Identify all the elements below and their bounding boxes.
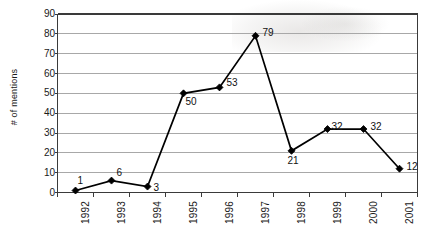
x-axis-tick-label: 1999 [332,200,343,223]
data-point-label: 79 [263,28,274,38]
x-axis-tick-label: 2001 [404,200,415,223]
data-point-label: 6 [117,168,123,178]
line-chart: # of mentions 0102030405060708090 199219… [0,0,442,236]
data-point-label: 50 [186,97,197,107]
x-axis-tick-label: 1998 [296,200,307,223]
data-point-label: 12 [407,162,418,172]
x-axis-tick-label: 1997 [260,200,271,223]
x-axis-tick-label: 1993 [116,200,127,223]
x-axis-tick-label: 1996 [224,200,235,223]
x-axis-tick-label: 1995 [188,200,199,223]
data-point-label: 32 [371,122,382,132]
x-axis-tick-label: 1992 [80,200,91,223]
x-axis-tick-label: 2000 [368,200,379,223]
data-point-label: 53 [227,78,238,88]
data-point-label: 32 [332,122,343,132]
data-point-label: 1 [78,176,84,186]
data-point-label: 21 [288,156,299,166]
data-point-label: 3 [154,183,160,193]
x-axis-tick-label: 1994 [152,200,163,223]
